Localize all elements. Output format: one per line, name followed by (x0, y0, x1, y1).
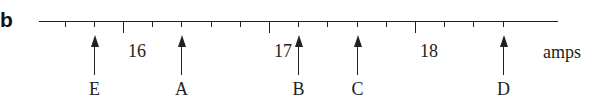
ammeter-scale-diagram: b 161718 EABCD amps (0, 0, 597, 102)
minor-tick (152, 21, 153, 27)
arrow-shaft (503, 43, 504, 75)
minor-tick (181, 21, 182, 27)
minor-tick (503, 21, 504, 27)
major-tick-label: 18 (420, 42, 438, 60)
reading-arrow-b (293, 35, 305, 75)
arrow-label-d: D (497, 80, 510, 98)
major-tick (269, 21, 270, 33)
arrow-shaft (357, 43, 358, 75)
minor-tick (473, 21, 474, 27)
minor-tick (386, 21, 387, 27)
minor-tick (298, 21, 299, 27)
reading-arrow-a (176, 35, 188, 75)
arrow-label-c: C (351, 80, 363, 98)
arrow-label-e: E (89, 80, 100, 98)
arrow-shaft (181, 43, 182, 75)
minor-tick (444, 21, 445, 27)
arrow-head-icon (354, 35, 362, 47)
arrow-head-icon (178, 35, 186, 47)
arrow-shaft (94, 43, 95, 75)
arrow-shaft (298, 43, 299, 75)
minor-tick (240, 21, 241, 27)
minor-tick (211, 21, 212, 27)
reading-arrow-d (498, 35, 510, 75)
arrow-head-icon (91, 35, 99, 47)
major-tick (415, 21, 416, 33)
arrow-label-a: A (175, 80, 188, 98)
arrow-head-icon (500, 35, 508, 47)
minor-tick (65, 21, 66, 27)
major-tick-label: 17 (274, 42, 292, 60)
panel-label: b (0, 9, 13, 30)
reading-arrow-e (89, 35, 101, 75)
arrow-head-icon (295, 35, 303, 47)
arrow-label-b: B (292, 80, 304, 98)
major-tick (123, 21, 124, 33)
minor-tick (94, 21, 95, 27)
minor-tick (357, 21, 358, 27)
reading-arrow-c (352, 35, 364, 75)
unit-label: amps (543, 43, 581, 61)
minor-tick (327, 21, 328, 27)
major-tick-label: 16 (128, 42, 146, 60)
